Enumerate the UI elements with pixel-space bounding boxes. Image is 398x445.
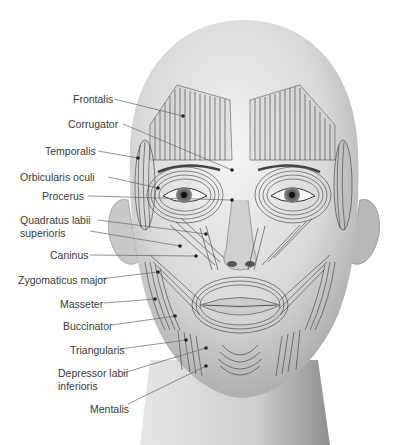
label-masseter: Masseter xyxy=(60,298,103,310)
label-quadratus-labii-superioris-line1: Quadratus labii xyxy=(20,214,91,226)
label-temporalis: Temporalis xyxy=(45,145,96,157)
label-quadratus-labii-superioris-line2: superioris xyxy=(20,227,66,239)
label-zygomaticus-major: Zygomaticus major xyxy=(18,274,107,286)
label-depressor-labii-inferioris-line1: Depressor labii xyxy=(58,367,128,379)
label-corrugator: Corrugator xyxy=(68,118,118,130)
label-buccinator: Buccinator xyxy=(63,320,113,332)
facial-muscles-diagram: Frontalis Corrugator Temporalis Orbicula… xyxy=(0,0,398,445)
label-orbicularis-oculi: Orbicularis oculi xyxy=(20,171,95,183)
label-frontalis: Frontalis xyxy=(73,93,113,105)
label-triangularis: Triangularis xyxy=(70,344,124,356)
label-procerus: Procerus xyxy=(42,190,84,202)
label-depressor-labii-inferioris-line2: inferioris xyxy=(58,380,98,392)
label-mentalis: Mentalis xyxy=(90,403,129,415)
label-caninus: Caninus xyxy=(50,249,89,261)
